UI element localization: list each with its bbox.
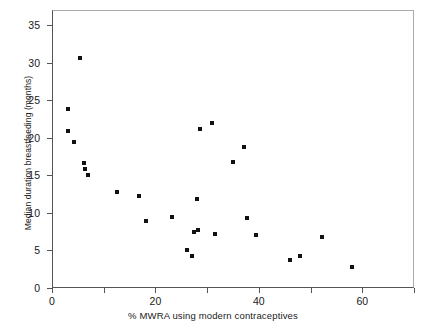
x-axis-tick xyxy=(52,288,53,293)
y-axis-tick xyxy=(47,175,52,176)
x-axis-tick xyxy=(414,288,415,293)
x-axis-tick xyxy=(104,288,105,293)
x-axis-title: % MWRA using modern contraceptives xyxy=(0,310,426,321)
x-axis-tick xyxy=(155,288,156,293)
y-axis-tick xyxy=(47,213,52,214)
y-axis-tick-label: 20 xyxy=(14,133,40,143)
x-axis-tick-label: 0 xyxy=(37,296,67,306)
y-axis-tick xyxy=(47,250,52,251)
y-axis-tick xyxy=(47,100,52,101)
y-axis-tick xyxy=(47,25,52,26)
y-axis-tick-label: 30 xyxy=(14,58,40,68)
plot-area xyxy=(52,10,414,288)
x-axis-tick xyxy=(259,288,260,293)
y-axis-tick-label: 0 xyxy=(14,283,40,293)
y-axis-tick-label: 10 xyxy=(14,208,40,218)
x-axis-tick xyxy=(311,288,312,293)
y-axis-tick-label: 5 xyxy=(14,245,40,255)
y-axis-tick xyxy=(47,138,52,139)
y-axis-tick xyxy=(47,63,52,64)
x-axis-tick-label: 60 xyxy=(347,296,377,306)
y-axis-tick-label: 25 xyxy=(14,95,40,105)
y-axis-tick-label: 15 xyxy=(14,170,40,180)
y-axis-title: Median duration breastfeeding (months) xyxy=(23,43,33,263)
x-axis-tick xyxy=(207,288,208,293)
x-axis-tick xyxy=(362,288,363,293)
y-axis-tick-label: 35 xyxy=(14,20,40,30)
scatter-plot-figure: % MWRA using modern contraceptives Media… xyxy=(0,0,426,330)
x-axis-tick-label: 20 xyxy=(140,296,170,306)
x-axis-tick-label: 40 xyxy=(244,296,274,306)
